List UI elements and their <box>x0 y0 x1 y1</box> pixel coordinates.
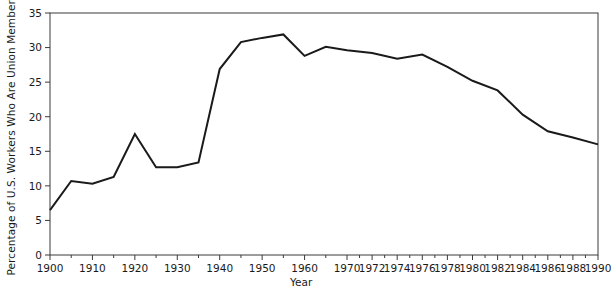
x-tick-label: 1984 <box>509 262 536 274</box>
x-tick-label: 1990 <box>585 262 611 274</box>
x-tick-label: 1980 <box>459 262 486 274</box>
x-tick-label: 1970 <box>334 262 361 274</box>
x-axis-ticks: 1900191019201930194019501960197019721974… <box>37 255 611 274</box>
x-tick-label: 1982 <box>484 262 511 274</box>
y-tick-label: 0 <box>35 249 42 261</box>
union-membership-chart-figure: Percentage of U.S. Workers Who Are Union… <box>0 0 611 295</box>
y-axis-label-container: Percentage of U.S. Workers Who Are Union… <box>0 0 22 270</box>
x-tick-label: 1978 <box>434 262 461 274</box>
x-tick-label: 1920 <box>121 262 148 274</box>
y-tick-label: 35 <box>29 7 42 19</box>
y-tick-label: 10 <box>29 180 42 192</box>
x-tick-label: 1900 <box>37 262 64 274</box>
x-tick-label: 1950 <box>249 262 276 274</box>
y-tick-label: 30 <box>29 41 42 53</box>
y-tick-label: 20 <box>29 111 42 123</box>
y-axis-ticks: 05101520253035 <box>29 7 50 261</box>
x-tick-label: 1988 <box>560 262 587 274</box>
x-tick-label: 1910 <box>79 262 106 274</box>
x-tick-label: 1986 <box>534 262 561 274</box>
y-tick-label: 15 <box>29 145 42 157</box>
x-tick-label: 1974 <box>384 262 411 274</box>
y-tick-label: 25 <box>29 76 42 88</box>
x-tick-label: 1960 <box>291 262 318 274</box>
x-tick-label: 1930 <box>164 262 191 274</box>
data-series-group <box>50 34 598 210</box>
x-tick-label: 1940 <box>206 262 233 274</box>
union-membership-line <box>50 34 598 210</box>
y-axis-label: Percentage of U.S. Workers Who Are Union… <box>5 0 17 276</box>
chart-plot-svg: 05101520253035 1900191019201930194019501… <box>0 0 611 295</box>
x-tick-label: 1976 <box>409 262 436 274</box>
plot-frame-rect <box>50 13 598 255</box>
x-tick-label: 1972 <box>359 262 386 274</box>
x-axis-label: Year <box>290 276 312 288</box>
plot-frame <box>50 13 598 255</box>
y-tick-label: 5 <box>35 214 42 226</box>
